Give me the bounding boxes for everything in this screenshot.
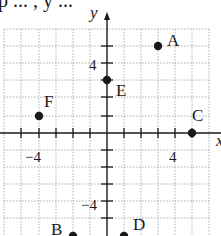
x-tick-label-4: 4: [169, 149, 177, 165]
y-axis-label: y: [88, 3, 98, 22]
point-label-f: F: [44, 92, 53, 111]
point-label-c: C: [192, 106, 203, 125]
point-c: [188, 129, 196, 137]
point-e: [103, 76, 111, 84]
x-axis-label: x: [215, 131, 221, 150]
point-label-d: D: [133, 215, 145, 234]
x-tick-label-neg4: −4: [25, 149, 41, 165]
y-tick-label-4: 4: [89, 57, 97, 73]
point-b: [69, 232, 77, 236]
y-axis-arrow-icon: [104, 12, 110, 20]
point-label-e: E: [116, 81, 126, 100]
point-d: [120, 232, 128, 236]
point-f: [35, 112, 43, 120]
point-a: [154, 42, 162, 50]
coordinate-grid: y x −4 4 4 −4 A E F C B D: [0, 0, 221, 236]
y-tick-label-neg4: −4: [81, 197, 97, 213]
point-label-a: A: [167, 31, 180, 50]
point-label-b: B: [51, 220, 62, 236]
axes: [0, 17, 221, 236]
points: [35, 42, 196, 236]
